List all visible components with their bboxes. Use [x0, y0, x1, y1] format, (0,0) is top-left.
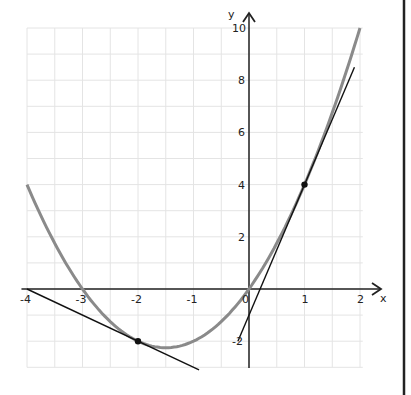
tangent-line: [27, 289, 199, 370]
x-tick-label: 1: [302, 293, 309, 306]
function-plot: -4-3-2-1012108642-2 x y: [0, 0, 411, 395]
x-tick-label: 2: [357, 293, 364, 306]
tangent-line: [238, 67, 355, 341]
x-tick-label: -1: [187, 293, 198, 306]
y-tick-label: 8: [238, 74, 245, 87]
y-tick-label: -2: [232, 335, 243, 348]
x-tick-label: -3: [76, 293, 87, 306]
y-tick-label: 2: [238, 231, 245, 244]
x-tick-label: -4: [20, 293, 31, 306]
x-tick-label: -2: [131, 293, 142, 306]
y-axis-label: y: [228, 8, 235, 21]
tangent-point-2: [135, 338, 141, 344]
y-tick-label: 10: [232, 22, 246, 35]
y-tick-label: 6: [238, 126, 245, 139]
y-tick-label: 4: [238, 179, 245, 192]
tangent-point-1: [301, 181, 307, 187]
grid: [27, 28, 363, 367]
x-axis-label: x: [380, 292, 387, 305]
x-tick-label: 0: [242, 293, 249, 306]
